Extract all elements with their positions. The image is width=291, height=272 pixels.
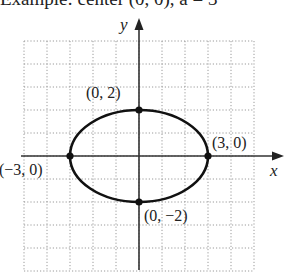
point-label: (0, −2) [144, 207, 188, 225]
ellipse-graph: x y (0, 2)(3, 0)(−3, 0)(0, −2) [0, 0, 291, 272]
vertex-point [66, 152, 73, 159]
y-axis-arrow-icon [135, 18, 144, 30]
points: (0, 2)(3, 0)(−3, 0)(0, −2) [0, 84, 247, 225]
x-axis-arrow-icon [272, 152, 284, 161]
vertex-point [204, 152, 211, 159]
vertex-point [135, 106, 142, 113]
point-label: (0, 2) [86, 84, 121, 102]
point-label: (3, 0) [212, 134, 247, 152]
y-axis-label: y [118, 15, 128, 34]
vertex-point [135, 198, 142, 205]
point-label: (−3, 0) [0, 161, 43, 179]
x-axis-label: x [269, 161, 278, 180]
